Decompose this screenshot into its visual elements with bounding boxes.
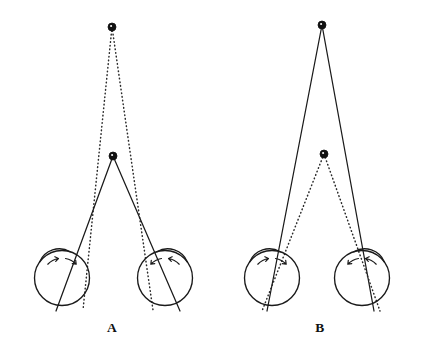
panel-b-far-dot [318,21,326,29]
eyeball-outline [245,251,300,306]
ray-far-to-left-eye [267,25,322,311]
panel-b-dotted-rays [262,154,380,311]
ray-near-to-right-eye [113,156,180,311]
panel-a-eyes [35,249,193,306]
panel-a-near-dot [109,152,117,160]
far-fixation-dot-highlight [110,25,112,27]
iris-arrow-arc-inner [348,259,359,265]
eye-right [335,249,390,306]
ray-far-to-right-eye [322,25,374,311]
eye-left [35,249,90,306]
panel-label-b: B [315,320,324,335]
far-fixation-dot [108,23,116,31]
iris-arrow-arc-outer [366,257,377,264]
binocular-convergence-figure: A [0,0,422,350]
figure-root: A [0,0,422,350]
iris-arrow-arc-outer [258,257,269,264]
iris-arrow-arc-outer [48,257,59,264]
iris-arrow-arc-outer [169,257,180,264]
ray-near-to-left-eye [56,156,113,311]
panel-b: B [245,21,390,335]
far-fixation-dot [318,21,326,29]
near-fixation-dot-highlight [111,154,113,156]
panel-a-solid-rays [56,156,180,311]
far-fixation-dot-highlight [320,23,322,25]
near-fixation-dot [109,152,117,160]
panel-b-solid-rays [267,25,374,311]
eyeball-outline [138,251,193,306]
ray-near-to-right-eye [324,154,380,311]
panel-label-a: A [107,320,117,335]
eye-left [245,249,300,306]
eyeball-outline [35,251,90,306]
near-fixation-dot [320,150,328,158]
panel-a-far-dot [108,23,116,31]
panel-b-near-dot [320,150,328,158]
near-fixation-dot-highlight [322,152,324,154]
panel-a: A [35,23,193,335]
